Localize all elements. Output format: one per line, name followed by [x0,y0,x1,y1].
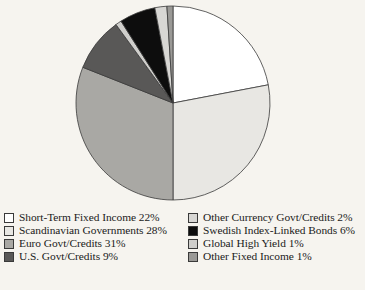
legend-item-other-currency-govt-credits[interactable]: Other Currency Govt/Credits 2% [185,211,365,224]
legend-label-swedish-index-linked-bonds: Swedish Index-Linked Bonds 6% [203,224,355,237]
pie-chart-area [0,0,365,206]
legend-column-left: Short-Term Fixed Income 22% Scandinavian… [0,211,185,231]
legend-item-scandinavian-governments[interactable]: Scandinavian Governments 28% [0,224,185,237]
legend-swatch-short-term-fixed-income [4,213,14,223]
legend-item-euro-govt-credits[interactable]: Euro Govt/Credits 31% [0,237,185,250]
legend-item-us-govt-credits[interactable]: U.S. Govt/Credits 9% [0,250,185,263]
pie-chart-figure: Short-Term Fixed Income 22% Scandinavian… [0,0,365,290]
chart-legend: Short-Term Fixed Income 22% Scandinavian… [0,206,365,290]
legend-item-other-fixed-income[interactable]: Other Fixed Income 1% [185,250,365,263]
pie-slice[interactable] [173,85,270,200]
legend-item-swedish-index-linked-bonds[interactable]: Swedish Index-Linked Bonds 6% [185,224,365,237]
legend-label-global-high-yield: Global High Yield 1% [203,237,304,250]
pie-chart-svg [0,0,365,206]
legend-column-right: Other Currency Govt/Credits 2% Swedish I… [185,211,365,231]
legend-label-euro-govt-credits: Euro Govt/Credits 31% [19,237,126,250]
legend-label-other-fixed-income: Other Fixed Income 1% [203,250,312,263]
legend-swatch-other-fixed-income [188,252,198,262]
legend-swatch-euro-govt-credits [4,239,14,249]
legend-label-us-govt-credits: U.S. Govt/Credits 9% [19,250,118,263]
legend-label-other-currency-govt-credits: Other Currency Govt/Credits 2% [203,211,352,224]
pie-slice-group [76,6,270,200]
legend-item-global-high-yield[interactable]: Global High Yield 1% [185,237,365,250]
legend-swatch-global-high-yield [188,239,198,249]
legend-label-short-term-fixed-income: Short-Term Fixed Income 22% [19,211,160,224]
legend-item-short-term-fixed-income[interactable]: Short-Term Fixed Income 22% [0,211,185,224]
legend-swatch-swedish-index-linked-bonds [188,226,198,236]
legend-swatch-other-currency-govt-credits [188,213,198,223]
legend-label-scandinavian-governments: Scandinavian Governments 28% [19,224,167,237]
legend-swatch-scandinavian-governments [4,226,14,236]
legend-swatch-us-govt-credits [4,252,14,262]
